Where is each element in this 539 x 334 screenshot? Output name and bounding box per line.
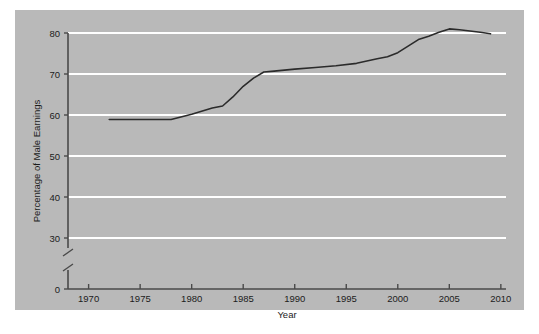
chart-figure: 0304050607080197019751980198519901995200… [0,0,539,334]
y-tick-label: 60 [49,110,60,121]
axes-group [63,33,506,289]
x-tick-label: 1980 [181,293,202,304]
x-tick-label: 2000 [387,293,408,304]
y-tick-label: 70 [49,69,60,80]
gridlines-group [68,33,506,238]
x-tick-label: 1985 [233,293,254,304]
y-axis-title: Percentage of Male Earnings [31,99,42,222]
x-axis-title: Year [277,309,296,320]
y-tick-label: 50 [49,151,60,162]
tick-labels-group: 0304050607080197019751980198519901995200… [49,28,511,305]
y-axis-break-marker [63,249,73,271]
x-tick-label: 2010 [490,293,511,304]
y-tick-label: 80 [49,28,60,39]
x-tick-label: 1970 [78,293,99,304]
x-tick-label: 1990 [284,293,305,304]
x-tick-label: 2005 [439,293,460,304]
line-chart: 0304050607080197019751980198519901995200… [0,0,539,334]
ticks-group [64,33,501,289]
y-tick-label: 40 [49,192,60,203]
y-tick-label: 0 [55,284,60,295]
y-tick-label: 30 [49,233,60,244]
x-tick-label: 1995 [336,293,357,304]
x-tick-label: 1975 [130,293,151,304]
